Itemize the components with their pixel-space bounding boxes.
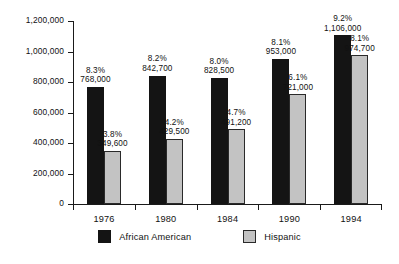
bar-percent-label: 8.0% xyxy=(182,57,256,67)
x-axis-tick xyxy=(197,204,198,210)
bar-1994-african-american xyxy=(334,35,351,204)
x-axis-category-label: 1994 xyxy=(321,214,381,224)
black-square-swatch-icon xyxy=(98,230,111,243)
gray-square-swatch-icon xyxy=(243,230,256,243)
bar-value-label: 491,200 xyxy=(199,118,273,128)
x-axis-tick xyxy=(381,204,382,210)
x-axis-line xyxy=(73,204,382,205)
bar-data-label: 4.7%491,200 xyxy=(199,108,273,127)
bar-value-label: 768,000 xyxy=(59,75,133,85)
bar-1976-hispanic xyxy=(104,151,121,204)
bar-percent-label: 4.7% xyxy=(199,108,273,118)
bar-value-label: 349,600 xyxy=(76,139,150,149)
bar-value-label: 974,700 xyxy=(323,44,397,54)
legend-label: African American xyxy=(119,232,191,242)
x-axis-category-label: 1976 xyxy=(74,214,134,224)
bar-value-label: 953,000 xyxy=(244,47,318,57)
plot-area: 0200,000400,000600,000800,0001,000,0001,… xyxy=(73,21,382,204)
bar-value-label: 721,000 xyxy=(261,83,335,93)
y-axis-tick: 1,200,000 xyxy=(68,21,73,22)
y-axis-tick-label: 400,000 xyxy=(33,137,64,148)
bar-percent-label: 8.1% xyxy=(323,34,397,44)
bar-1984-african-american xyxy=(211,78,228,204)
x-axis-category-label: 1984 xyxy=(198,214,258,224)
y-axis-tick-label: 0 xyxy=(59,198,64,209)
bar-percent-label: 8.1% xyxy=(244,38,318,48)
legend-item-african-american: African American xyxy=(98,230,191,243)
y-axis-tick-label: 600,000 xyxy=(33,107,64,118)
bar-chart: 0200,000400,000600,000800,0001,000,0001,… xyxy=(0,0,399,264)
x-axis-tick xyxy=(320,204,321,210)
bar-1980-hispanic xyxy=(166,139,183,204)
bar-percent-label: 6.1% xyxy=(261,73,335,83)
x-axis-category-label: 1980 xyxy=(136,214,196,224)
bar-1980-african-american xyxy=(149,76,166,205)
legend-item-hispanic: Hispanic xyxy=(243,230,300,243)
y-axis-tick-label: 1,000,000 xyxy=(26,46,64,57)
bar-data-label: 8.1%953,000 xyxy=(244,38,318,57)
bar-percent-label: 9.2% xyxy=(306,14,380,24)
bar-data-label: 9.2%1,106,000 xyxy=(306,14,380,33)
y-axis-tick-label: 1,200,000 xyxy=(26,15,64,26)
bar-value-label: 828,500 xyxy=(182,66,256,76)
bar-data-label: 6.1%721,000 xyxy=(261,73,335,92)
y-axis-tick: 400,000 xyxy=(68,143,73,144)
x-axis-tick xyxy=(135,204,136,210)
bar-data-label: 8.0%828,500 xyxy=(182,57,256,76)
legend-label: Hispanic xyxy=(264,232,300,242)
x-axis-tick xyxy=(73,204,74,210)
chart-legend: African American Hispanic xyxy=(0,230,399,243)
x-axis-tick xyxy=(258,204,259,210)
bar-value-label: 1,106,000 xyxy=(306,24,380,34)
x-axis-category-label: 1990 xyxy=(259,214,319,224)
y-axis-tick-label: 200,000 xyxy=(33,168,64,179)
bar-value-label: 429,500 xyxy=(137,127,211,137)
y-axis-tick: 1,000,000 xyxy=(68,52,73,53)
y-axis-tick: 200,000 xyxy=(68,174,73,175)
bar-data-label: 8.1%974,700 xyxy=(323,34,397,53)
bar-1984-hispanic xyxy=(228,129,245,204)
bar-1990-hispanic xyxy=(289,94,306,204)
bar-1994-hispanic xyxy=(351,55,368,204)
y-axis-tick: 600,000 xyxy=(68,113,73,114)
